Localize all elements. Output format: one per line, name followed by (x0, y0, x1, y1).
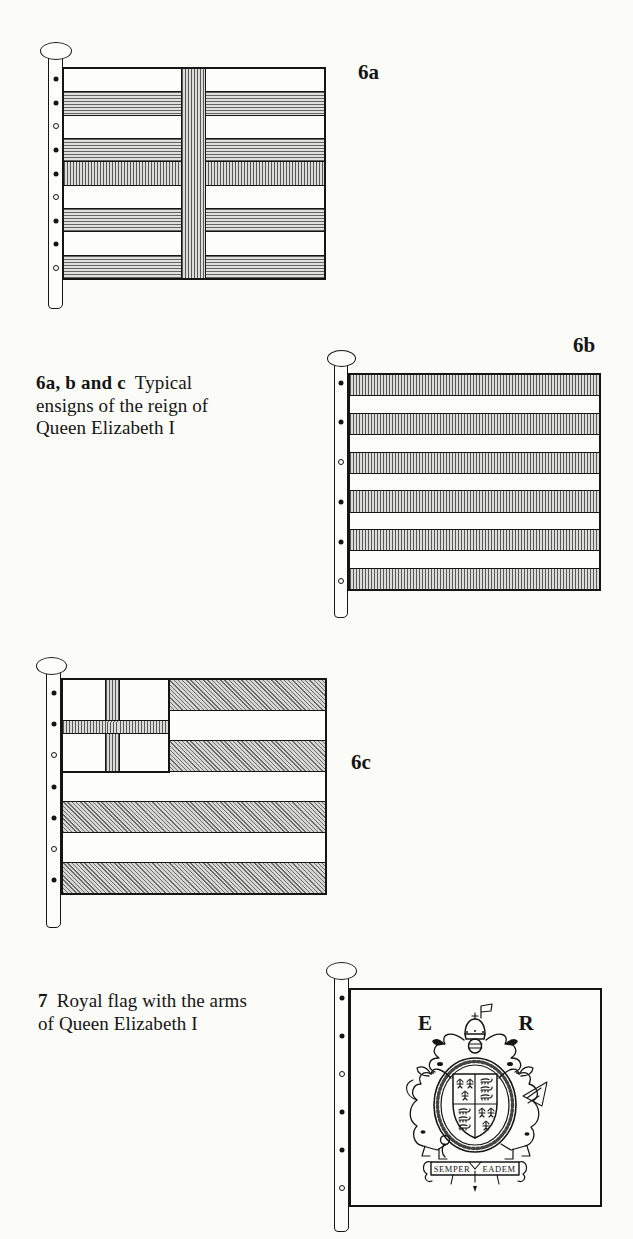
flag-stripe-shade-diagonal (63, 801, 325, 832)
flag-6a-grommets (48, 67, 63, 280)
flag-6b-stripes (350, 375, 599, 589)
pole-grommet (53, 123, 59, 129)
pole-grommet (339, 1185, 345, 1191)
pole-grommet (51, 784, 56, 789)
caption-royal-line2: of Queen Elizabeth I (38, 1013, 318, 1036)
crest-pennant-icon (481, 1004, 492, 1018)
pole-grommet (53, 194, 59, 200)
pole-grommet (51, 877, 56, 882)
motto-word-semper: SEMPER (434, 1164, 471, 1174)
pole-grommet (53, 100, 58, 105)
quartered-shield (453, 1074, 497, 1138)
pole-grommet (53, 147, 58, 152)
flag-stripe-shade-diagonal (63, 862, 325, 893)
flag-7-grommets (334, 988, 349, 1207)
pole-grommet (51, 752, 57, 758)
flag-stripe-shade-vertical (350, 413, 599, 434)
pole-finial (327, 350, 356, 367)
initial-E: E (418, 1011, 432, 1035)
canton-st-george (63, 680, 170, 773)
canton-cross-center (107, 722, 119, 733)
flag-7: E R (349, 988, 602, 1207)
flag-stripe-shade-vertical (350, 568, 599, 589)
flag-stripe-shade-vertical (350, 452, 599, 473)
caption-royal-prefix: 7 (38, 990, 48, 1011)
caption-ensigns-line1: 6a, b and cTypical (36, 372, 266, 395)
flag-stripe-white (350, 395, 599, 413)
flag-stripe-white (350, 434, 599, 452)
helm-icon (469, 1039, 483, 1053)
pole-grommet (339, 380, 344, 385)
royal-coat-of-arms: E R (395, 1002, 557, 1196)
pole-grommet (339, 996, 344, 1001)
pole-finial (36, 657, 67, 675)
motto-scroll: SEMPER EADEM (424, 1162, 527, 1192)
pole-grommet (51, 691, 56, 696)
caption-royal-rest: Royal flag with the arms (57, 990, 247, 1011)
pole-grommet (339, 420, 344, 425)
pole-grommet (51, 815, 56, 820)
pole-grommet (339, 1109, 344, 1114)
pole-finial (326, 962, 357, 980)
caption-ensigns: 6a, b and cTypical ensigns of the reign … (36, 372, 266, 440)
flag-stripe-shade-vertical (350, 490, 599, 511)
pole-grommet (53, 76, 58, 81)
flag-stripe-white (350, 550, 599, 568)
flag-stripe-shade-vertical (350, 529, 599, 550)
pole-grommet (53, 242, 58, 247)
pole-grommet (339, 1033, 344, 1038)
royal-crown-icon (465, 1013, 485, 1039)
flag-6a (62, 67, 326, 280)
pole-finial (40, 42, 72, 60)
pole-grommet (339, 539, 344, 544)
flag-stripe-white (350, 512, 599, 530)
caption-ensigns-line2: ensigns of the reign of (36, 395, 266, 418)
pole-grommet (338, 459, 344, 465)
flag-6c-grommets (46, 678, 61, 895)
flag-6b (348, 373, 601, 591)
flag-stripe-white (350, 473, 599, 491)
pole-grommet (51, 846, 57, 852)
motto-word-eadem: EADEM (482, 1164, 515, 1174)
figure-label-6b: 6b (573, 335, 595, 356)
caption-royal: 7Royal flag with the arms of Queen Eliza… (38, 990, 318, 1035)
pole-grommet (339, 499, 344, 504)
pole-grommet (338, 578, 344, 584)
pole-grommet (53, 218, 58, 223)
flag-6c (61, 678, 327, 895)
flag-stripe-white (63, 771, 325, 802)
flag-6b-grommets (334, 373, 348, 591)
pole-grommet (339, 1071, 345, 1077)
pole-grommet (51, 722, 56, 727)
st-george-cross-vertical-arm (181, 69, 206, 278)
caption-royal-line1: 7Royal flag with the arms (38, 990, 318, 1013)
figure-label-6a: 6a (358, 62, 379, 83)
figure-label-6c: 6c (351, 752, 371, 773)
pole-grommet (53, 171, 58, 176)
caption-ensigns-line3: Queen Elizabeth I (36, 417, 266, 440)
pole-grommet (53, 265, 59, 271)
flag-stripe-shade-vertical (350, 375, 599, 395)
flag-stripe-white (63, 832, 325, 863)
book-page: 6a 6a, b and cTypical ensigns of the rei… (0, 0, 633, 1239)
pole-grommet (339, 1148, 344, 1153)
initial-R: R (518, 1011, 534, 1035)
caption-ensigns-prefix: 6a, b and c (36, 372, 126, 393)
caption-ensigns-rest: Typical (135, 372, 192, 393)
